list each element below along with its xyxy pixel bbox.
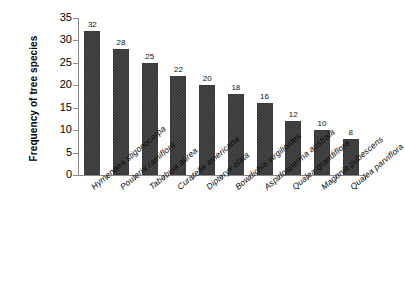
bar-chart: Frequency of tree species 05101520253035… [0,0,375,289]
x-axis-labels: Hymenaea stigonocarpaPouteria ramifloraT… [0,0,375,289]
